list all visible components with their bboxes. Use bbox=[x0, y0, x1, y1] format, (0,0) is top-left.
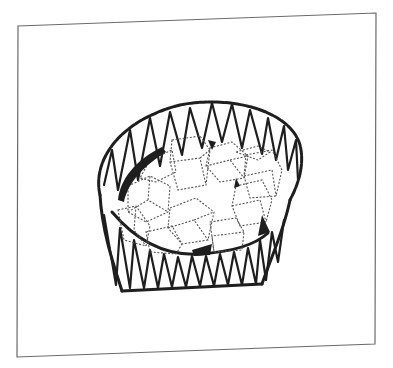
picture-frame bbox=[17, 13, 376, 357]
basket-illustration bbox=[0, 0, 393, 368]
cube bbox=[232, 180, 272, 226]
cube bbox=[168, 198, 214, 244]
cube bbox=[128, 176, 170, 222]
cube bbox=[170, 136, 210, 190]
bottom-shadow bbox=[192, 244, 212, 256]
